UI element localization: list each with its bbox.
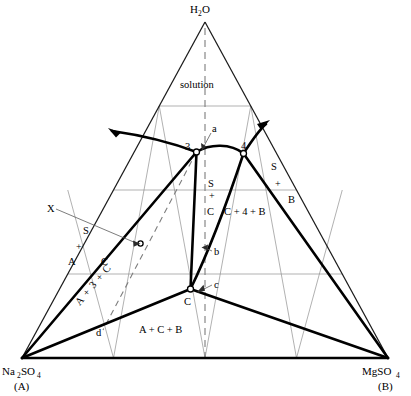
region-label-A3C-plus1: + [80,286,92,298]
region-label-S-plus-B-line2: + [275,178,281,189]
arrowhead-c-leader [197,285,206,293]
region-label-ASC-plus: + [76,241,82,252]
boundary-3-to-C [191,152,197,289]
apex-label-water: H 2 O [190,3,210,18]
region-label-A-3-C: A + 3 + C [73,263,113,308]
point-label-c: c [214,279,219,290]
region-label-S-plus-C: S + C [207,178,215,217]
node-point-4 [241,151,247,157]
na2so4-label-sub4: 4 [37,371,41,380]
point-label-X: X [47,203,55,214]
region-label-S-plus-C-line1: S [208,178,214,189]
point-label-4: 4 [241,140,247,151]
region-label-S-plus-C-line2: + [209,190,215,201]
join-C-to-B [191,289,389,358]
water-label-O: O [202,3,210,15]
region-label-A-plus-S-C: S + A C [68,225,108,267]
mgso4-label-main: MgSO [362,365,391,377]
node-point-C [188,286,194,292]
corner-label-sodium-sulfate: Na 2 SO 4 (A) [2,365,41,393]
gridline-right-parallel-1 [251,106,297,358]
na2so4-label-Na: Na [2,365,15,377]
na2so4-label-SO: SO [21,365,35,377]
join-B-to-4 [244,154,389,359]
region-label-solution: solution [180,79,215,90]
water-label-H: H [190,3,198,15]
region-label-A3C-C: C [100,263,113,275]
point-label-C-eutectic: C [184,296,191,307]
point-label-b: b [214,246,219,257]
region-label-ASC-A: A [68,256,76,267]
node-point-3 [194,149,200,155]
mgso4-label-sub4: 4 [396,371,400,380]
region-label-ASC-S: S [83,225,89,236]
dashed-lines [103,28,205,358]
diagram-canvas: H 2 O Na 2 SO 4 (A) MgSO 4 (B) solution … [0,0,411,396]
gridline-right-parallel-2 [159,106,205,358]
point-label-d: d [96,327,102,338]
region-label-C-4-B: C + 4 + B [224,206,266,217]
gridline-left-parallel-1 [114,106,160,358]
dashed-tieline-3-to-d [103,152,197,330]
region-label-S-plus-C-line3: C [207,206,214,217]
mgso4-label-designator: (B) [378,380,393,393]
point-label-3: 3 [185,141,190,152]
region-label-A3C-plus2: + [93,271,105,283]
region-label-S-plus-B-line3: B [288,194,295,205]
corner-label-magnesium-sulfate: MgSO 4 (B) [362,365,400,393]
ternary-phase-diagram: H 2 O Na 2 SO 4 (A) MgSO 4 (B) solution … [0,0,411,396]
boundary-4-to-C [191,154,244,290]
region-label-S-plus-B-line1: S [271,161,277,172]
leader-X-to-marker [56,209,136,243]
region-label-A-C-B: A + C + B [139,324,182,335]
na2so4-label-designator: (A) [14,380,30,393]
point-label-a: a [212,123,217,134]
arrowhead-left-branch [108,128,121,138]
